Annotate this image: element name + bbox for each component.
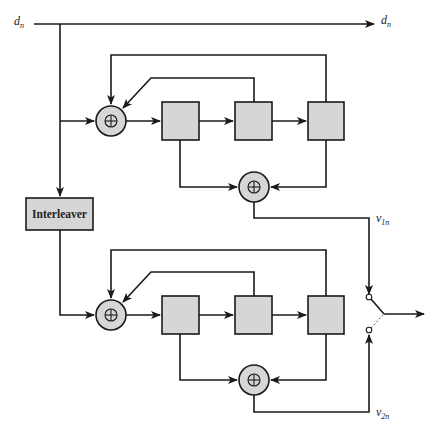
shift-register-2b [235,296,272,334]
shift-register-2c [308,296,344,334]
turbo-encoder-diagram: dn dn v1n [0,0,443,435]
interleaver-block: Interleaver [26,198,93,230]
systematic-path: dn dn [14,13,391,30]
svg-text:Interleaver: Interleaver [32,208,87,220]
output-adder-1 [239,172,269,202]
shift-register-1b [235,102,272,140]
encoder-2: v2n [96,250,389,421]
v2n-line [254,335,369,412]
v1n-label: v1n [376,211,389,227]
encoder-1: v1n [96,55,389,294]
input-adder-1 [96,106,126,136]
v2n-label: v2n [376,405,389,421]
outer-feedback-1 [111,55,326,104]
shift-register-1a [162,102,199,140]
shift-register-1c [308,102,344,140]
shift-register-2a [162,296,199,334]
systematic-output-label: dn [381,13,391,29]
puncture-switch [366,294,424,333]
interleaver-to-encoder2 [60,230,94,315]
input-adder-2 [96,300,126,330]
output-adder-2 [239,365,269,395]
v1n-line [254,202,369,294]
outer-feedback-2 [111,250,326,298]
input-label: dn [14,14,24,30]
